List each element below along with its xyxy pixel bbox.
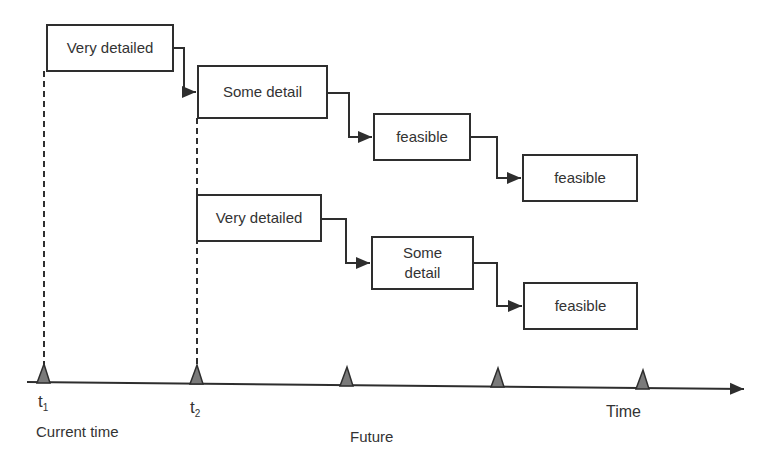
box-plan2-very-detailed: Very detailed <box>196 194 322 242</box>
marker-triangle-icon <box>491 368 504 387</box>
box-plan1-feasible-1: feasible <box>373 113 471 161</box>
box-plan1-very-detailed: Very detailed <box>46 24 174 72</box>
connector-e-f <box>321 219 370 263</box>
marker-triangle-icon <box>190 365 203 384</box>
connector-f-g <box>473 263 522 306</box>
marker-triangle-icon <box>340 367 353 386</box>
current-time-label: Current time <box>36 423 119 440</box>
box-plan2-some-detail: Some detail <box>371 236 474 290</box>
connector-c-d <box>470 137 521 178</box>
future-label: Future <box>350 428 393 445</box>
connector-a-b <box>173 48 196 92</box>
connector-b-c <box>327 93 372 137</box>
box-plan1-feasible-2: feasible <box>522 154 638 202</box>
marker-triangle-icon <box>37 364 50 383</box>
t2-label: t2 <box>190 398 200 419</box>
marker-triangle-icon <box>636 370 649 389</box>
time-axis-label: Time <box>606 403 641 421</box>
box-plan2-feasible: feasible <box>523 282 638 330</box>
box-plan1-some-detail: Some detail <box>197 65 328 119</box>
t1-label: t1 <box>38 392 48 413</box>
